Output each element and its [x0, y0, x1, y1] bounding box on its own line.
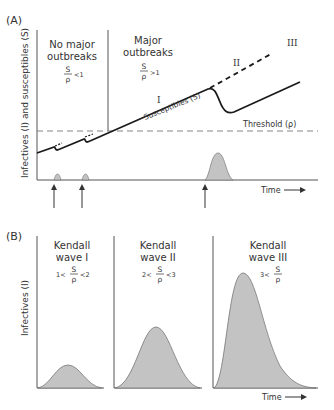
region-2-title-line2: outbreaks: [123, 47, 173, 58]
wave-1-ratio-num: S: [72, 265, 77, 274]
threshold-label: Threshold (ρ): [242, 120, 296, 129]
panel-a: (A) Infectives (I) and susceptibles (S) …: [6, 14, 318, 208]
region-1-ratio-num: S: [66, 65, 71, 74]
wave-2-cond-right: <3: [166, 271, 176, 279]
wave-3-ratio-num: S: [276, 265, 281, 274]
region-2-ratio-cmp: >1: [150, 69, 160, 77]
infective-peak-3: [205, 153, 233, 180]
kendall-wave-2-panel: Kendall wave II 2< S ρ <3: [114, 236, 202, 388]
panel-a-time-label: Time: [260, 186, 281, 195]
dip-2-dashed: [85, 134, 93, 137]
susceptibles-no-outbreak-projection: [210, 54, 271, 88]
infective-peak-1: [54, 174, 61, 180]
panel-b: (B) Infectives (I) Kendall wave I 1< S ρ…: [6, 230, 318, 402]
susceptibles-label: Susceptibles (S): [142, 91, 201, 122]
panel-b-y-axis-label: Infectives (I): [20, 280, 30, 336]
wave-2-ratio-den: ρ: [158, 275, 163, 284]
wave-2-cond-left: 2<: [142, 271, 152, 279]
wave-1-cond-right: <2: [80, 271, 90, 279]
panel-b-label: (B): [6, 230, 22, 243]
wave-2-curve: [115, 327, 200, 388]
wave-1-title-line2: wave I: [56, 252, 89, 263]
marker-wave-1: I: [157, 95, 161, 105]
wave-1-title-line1: Kendall: [54, 240, 91, 251]
wave-3-curve: [214, 273, 316, 388]
region-2-title-line1: Major: [134, 35, 163, 46]
wave-1-cond-left: 1<: [56, 271, 66, 279]
wave-3-ratio-den: ρ: [276, 275, 281, 284]
region-1-title-line2: outbreaks: [47, 51, 97, 62]
kendall-wave-3-panel: Kendall wave III 3< S ρ: [213, 236, 318, 388]
dip-1-dashed: [55, 143, 62, 146]
panel-a-label: (A): [6, 14, 22, 27]
susceptibles-curve: [37, 82, 300, 153]
panel-b-time-label: Time: [261, 393, 282, 402]
region-1-ratio-cmp: <1: [74, 71, 84, 79]
wave-2-title-line2: wave II: [140, 252, 175, 263]
panel-a-y-axis-label: Infectives (I) and susceptibles (S): [20, 28, 30, 178]
wave-2-title-line1: Kendall: [140, 240, 177, 251]
wave-1-curve: [38, 365, 102, 388]
wave-3-title-line1: Kendall: [250, 240, 287, 251]
wave-3-cond-left: 3<: [260, 271, 270, 279]
marker-wave-3: III: [287, 38, 298, 48]
wave-2-ratio-num: S: [158, 265, 163, 274]
kendall-waves-diagram: (A) Infectives (I) and susceptibles (S) …: [0, 0, 334, 410]
wave-1-ratio-den: ρ: [72, 275, 77, 284]
marker-wave-2: II: [233, 58, 241, 68]
wave-3-title-line2: wave III: [249, 252, 287, 263]
region-1-title-line1: No major: [49, 39, 96, 50]
region-2-ratio-den: ρ: [142, 72, 147, 81]
region-2-ratio-num: S: [142, 62, 147, 71]
kendall-wave-1-panel: Kendall wave I 1< S ρ <2: [37, 236, 104, 388]
infective-peak-2: [82, 174, 89, 180]
region-1-ratio-den: ρ: [66, 75, 71, 84]
